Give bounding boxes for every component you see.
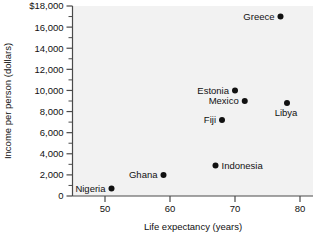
y-tick-label: 6,000 (40, 127, 64, 138)
data-point-label: Mexico (209, 95, 239, 106)
data-point-label: Ghana (129, 169, 158, 180)
x-axis-ticks (105, 196, 300, 202)
y-tick-label: $18,000 (29, 0, 63, 11)
y-axis-ticks (67, 6, 73, 196)
data-point-label: Nigeria (75, 183, 106, 194)
y-tick-label: 4,000 (40, 148, 64, 159)
y-tick-label: 16,000 (34, 22, 63, 33)
data-point-marker (109, 186, 115, 192)
y-tick-label: 0 (58, 190, 63, 201)
data-point-marker (284, 100, 290, 106)
x-tick-label: 60 (165, 203, 176, 214)
data-point-label: Libya (275, 107, 298, 118)
x-tick-label: 70 (230, 203, 241, 214)
y-axis-tick-labels: 02,0004,0006,0008,00010,00012,00014,0001… (29, 0, 63, 201)
x-tick-label: 80 (295, 203, 306, 214)
data-point-marker (232, 87, 238, 93)
y-tick-label: 14,000 (34, 43, 63, 54)
x-tick-label: 50 (100, 203, 111, 214)
y-axis-title: Income per person (dollars) (2, 43, 13, 159)
y-tick-label: 2,000 (40, 169, 64, 180)
data-point-marker (161, 172, 167, 178)
plot-area-background (73, 6, 313, 196)
scatter-plot-figure: 02,0004,0006,0008,00010,00012,00014,0001… (0, 0, 319, 233)
data-point-marker (278, 14, 284, 20)
data-point-label: Greece (243, 11, 274, 22)
y-tick-label: 8,000 (40, 106, 64, 117)
data-point-marker (242, 98, 248, 104)
y-tick-label: 10,000 (34, 85, 63, 96)
x-axis-title: Life expectancy (years) (144, 221, 242, 232)
data-point-label: Fiji (204, 114, 216, 125)
x-axis-tick-labels: 50607080 (100, 203, 306, 214)
data-point-label: Indonesia (222, 160, 264, 171)
data-point-marker (219, 117, 225, 123)
y-tick-label: 12,000 (34, 64, 63, 75)
data-point-label: Estonia (197, 85, 229, 96)
chart-canvas: 02,0004,0006,0008,00010,00012,00014,0001… (0, 0, 319, 233)
data-point-marker (213, 162, 219, 168)
